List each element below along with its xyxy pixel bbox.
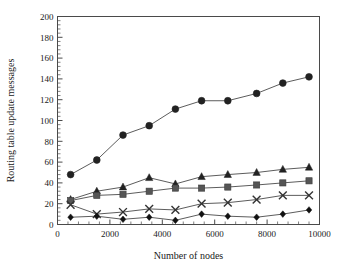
marker-square xyxy=(199,185,205,191)
marker-square xyxy=(280,180,286,186)
x-axis-title: Number of nodes xyxy=(154,250,224,261)
marker-circle xyxy=(279,80,286,87)
y-tick-label: 80 xyxy=(45,137,55,147)
y-tick-label: 20 xyxy=(45,199,55,209)
y-tick-label: 100 xyxy=(40,116,54,126)
marker-square xyxy=(120,191,126,197)
marker-square xyxy=(225,184,231,190)
y-tick-label: 160 xyxy=(40,53,54,63)
marker-circle xyxy=(306,73,313,80)
marker-circle xyxy=(224,97,231,104)
y-tick-label: 60 xyxy=(45,157,55,167)
y-tick-label: 140 xyxy=(40,74,54,84)
x-tick-label: 8000 xyxy=(258,229,277,239)
marker-square xyxy=(306,178,312,184)
marker-square xyxy=(94,192,100,198)
x-tick-label: 4000 xyxy=(153,229,172,239)
x-tick-label: 6000 xyxy=(206,229,225,239)
marker-square xyxy=(172,185,178,191)
marker-square xyxy=(146,188,152,194)
marker-circle xyxy=(67,171,74,178)
chart-canvas: 0204060801001201401601802000200040006000… xyxy=(0,0,343,267)
marker-circle xyxy=(120,132,127,139)
y-tick-label: 200 xyxy=(40,12,54,22)
marker-circle xyxy=(253,90,260,97)
x-tick-label: 0 xyxy=(55,229,60,239)
y-tick-label: 40 xyxy=(45,178,55,188)
x-tick-label: 2000 xyxy=(101,229,120,239)
marker-circle xyxy=(93,157,100,164)
marker-circle xyxy=(146,122,153,129)
marker-circle xyxy=(198,97,205,104)
y-tick-label: 120 xyxy=(40,95,54,105)
chart-figure: 0204060801001201401601802000200040006000… xyxy=(0,0,343,267)
y-axis-title: Routing table update messages xyxy=(5,59,16,183)
y-tick-label: 0 xyxy=(49,220,54,230)
marker-circle xyxy=(172,106,179,113)
y-tick-label: 180 xyxy=(40,33,54,43)
marker-square xyxy=(254,182,260,188)
x-tick-label: 10000 xyxy=(308,229,331,239)
